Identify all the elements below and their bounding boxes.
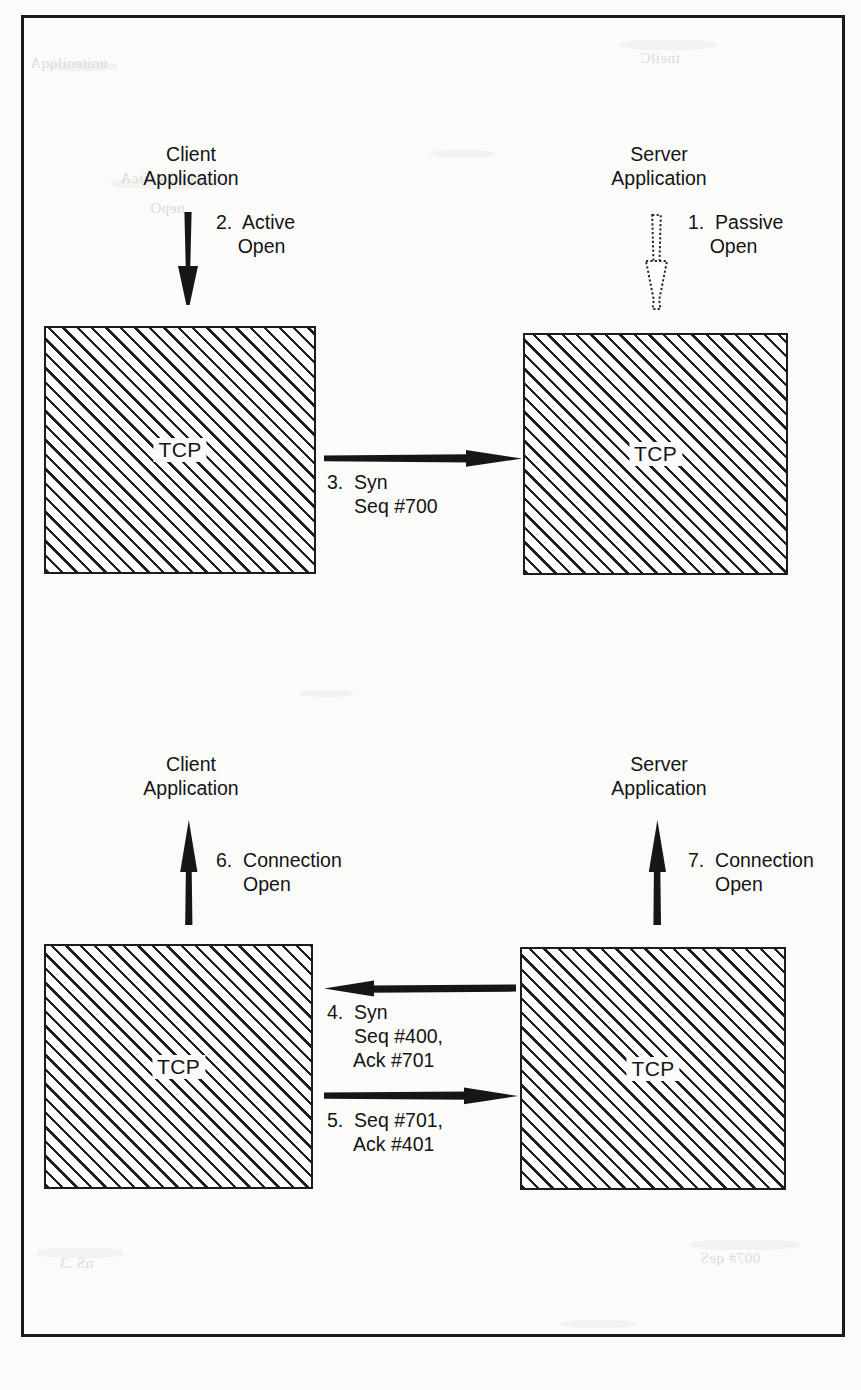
tcp-handshake-diagram: Client Application 2. Active Open Server… [0, 0, 861, 1390]
passive-open-arrow [646, 215, 667, 309]
step-7-connection-open-label: 7. Connection Open [688, 848, 814, 896]
tcp-box-label: TCP [152, 1055, 205, 1079]
top-client-tcp-box: TCP [44, 326, 316, 574]
connection-open-server-arrow [649, 820, 666, 925]
step-4-syn-seq400-ack701-label: 4. Syn Seq #400, Ack #701 [327, 1000, 443, 1072]
syn-seq400-ack701-arrow [324, 981, 516, 997]
tcp-box-label: TCP [626, 1057, 679, 1081]
syn-seq700-arrow [324, 450, 522, 467]
tcp-box-label: TCP [153, 438, 206, 462]
bottom-client-application-label: Client Application [96, 752, 286, 800]
top-client-application-label: Client Application [96, 142, 286, 190]
seq701-ack401-arrow [324, 1087, 518, 1104]
tcp-box-label: TCP [629, 442, 682, 466]
connection-open-client-arrow [180, 820, 197, 925]
active-open-arrow [178, 212, 198, 305]
top-server-application-label: Server Application [559, 142, 759, 190]
step-6-connection-open-label: 6. Connection Open [216, 848, 342, 896]
top-server-tcp-box: TCP [523, 333, 788, 575]
bottom-server-application-label: Server Application [559, 752, 759, 800]
step-3-syn-seq700-label: 3. Syn Seq #700 [327, 470, 438, 518]
step-2-active-open-label: 2. Active Open [216, 210, 295, 258]
bottom-client-tcp-box: TCP [44, 944, 313, 1189]
step-1-passive-open-label: 1. Passive Open [688, 210, 783, 258]
step-5-seq701-ack401-label: 5. Seq #701, Ack #401 [327, 1108, 443, 1156]
bottom-server-tcp-box: TCP [520, 947, 786, 1190]
